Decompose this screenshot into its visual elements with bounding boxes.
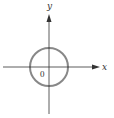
x-axis-arrow-icon [92,65,100,70]
y-axis-label: y [46,1,53,11]
origin-label: 0 [40,69,45,79]
x-axis-label: x [102,62,107,72]
y-axis-arrow-icon [47,14,52,22]
coordinate-diagram: y x 0 [0,0,114,118]
